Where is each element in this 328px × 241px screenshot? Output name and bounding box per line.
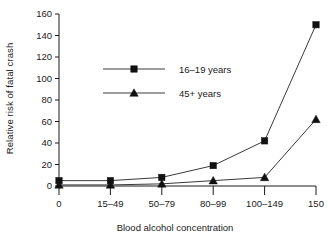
- x-tick-label: 0: [56, 198, 61, 209]
- legend-label: 45+ years: [179, 88, 221, 99]
- y-tick-label: 100: [36, 73, 52, 84]
- y-tick-label: 20: [41, 159, 52, 170]
- x-axis-title-text: Blood alcohol concentration: [117, 222, 234, 233]
- chart-container: Relative risk of fatal crash 02040608010…: [0, 0, 328, 241]
- legend-label: 16–19 years: [179, 64, 232, 75]
- data-point-square: [261, 138, 267, 144]
- y-tick-label: 120: [36, 51, 52, 62]
- series-line-square: [59, 25, 316, 181]
- y-tick-label: 140: [36, 30, 52, 41]
- legend-square-marker: [131, 66, 137, 72]
- x-tick-label: 50–79: [149, 198, 175, 209]
- data-point-square: [313, 22, 319, 28]
- data-point-square: [210, 162, 216, 168]
- x-axis-title: Blood alcohol concentration: [0, 222, 328, 233]
- x-tick-label: 15–49: [97, 198, 123, 209]
- y-tick-label: 60: [41, 116, 52, 127]
- y-tick-label: 80: [41, 94, 52, 105]
- x-tick-label: 80–99: [200, 198, 226, 209]
- x-tick-label: 150: [308, 198, 324, 209]
- y-tick-label: 160: [36, 8, 52, 19]
- series-line-triangle: [59, 119, 316, 185]
- x-tick-label: 100–149: [246, 198, 283, 209]
- y-tick-label: 40: [41, 137, 52, 148]
- y-tick-label: 0: [47, 180, 52, 191]
- data-point-triangle: [312, 115, 320, 122]
- chart-plot-area: 020406080100120140160015–4950–7980–99100…: [0, 0, 328, 241]
